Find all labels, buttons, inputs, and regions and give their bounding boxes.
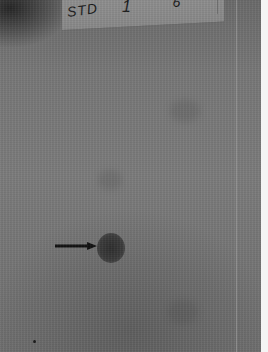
label-tape xyxy=(62,0,224,31)
image-border xyxy=(261,0,268,352)
arrow-icon xyxy=(55,242,97,250)
faint-spot xyxy=(168,300,198,324)
plate-edge-line xyxy=(236,0,237,352)
dust-speck xyxy=(33,340,36,343)
tlc-plate-photo: STD 1 6 xyxy=(0,0,262,352)
faint-spot xyxy=(98,170,122,190)
faint-spot xyxy=(170,100,200,122)
lane-label-std: STD xyxy=(66,0,99,20)
dark-spot xyxy=(97,233,125,263)
lane-label-1: 1 xyxy=(122,0,132,16)
tape-divider xyxy=(217,0,218,14)
lane-label-6: 6 xyxy=(171,0,183,11)
